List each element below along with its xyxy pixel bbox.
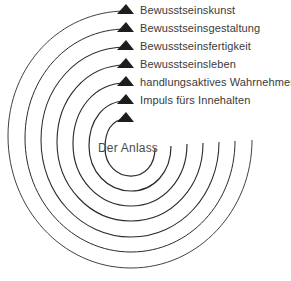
- stage-label-handlungsaktives-wahrnehmen: handlungsaktives Wahrnehmen: [140, 76, 291, 88]
- triangle-up-icon-7: [117, 4, 134, 14]
- triangle-up-icon-5: [117, 40, 134, 50]
- center-label-der-anlass: Der Anlass: [98, 141, 158, 155]
- triangle-up-icon-1: [117, 112, 134, 122]
- spiral-diagram: Bewusstseinskunst Bewusstseinsgestaltung…: [0, 0, 291, 281]
- stage-label-bewusstseinsfertigkeit: Bewusstseinsfertigkeit: [140, 40, 251, 52]
- triangle-up-icon-4: [117, 58, 134, 68]
- stage-label-bewusstseinsgestaltung: Bewusstseinsgestaltung: [140, 22, 260, 34]
- triangle-up-icon-6: [117, 22, 134, 32]
- triangle-up-icon-2: [117, 94, 134, 104]
- stage-label-bewusstseinskunst: Bewusstseinskunst: [140, 4, 235, 16]
- stage-label-bewusstseinsleben: Bewusstseinsleben: [140, 58, 236, 70]
- triangle-up-icon-3: [117, 76, 134, 86]
- stage-label-impuls-fuers-innehalten: Impuls fürs Innehalten: [140, 94, 250, 106]
